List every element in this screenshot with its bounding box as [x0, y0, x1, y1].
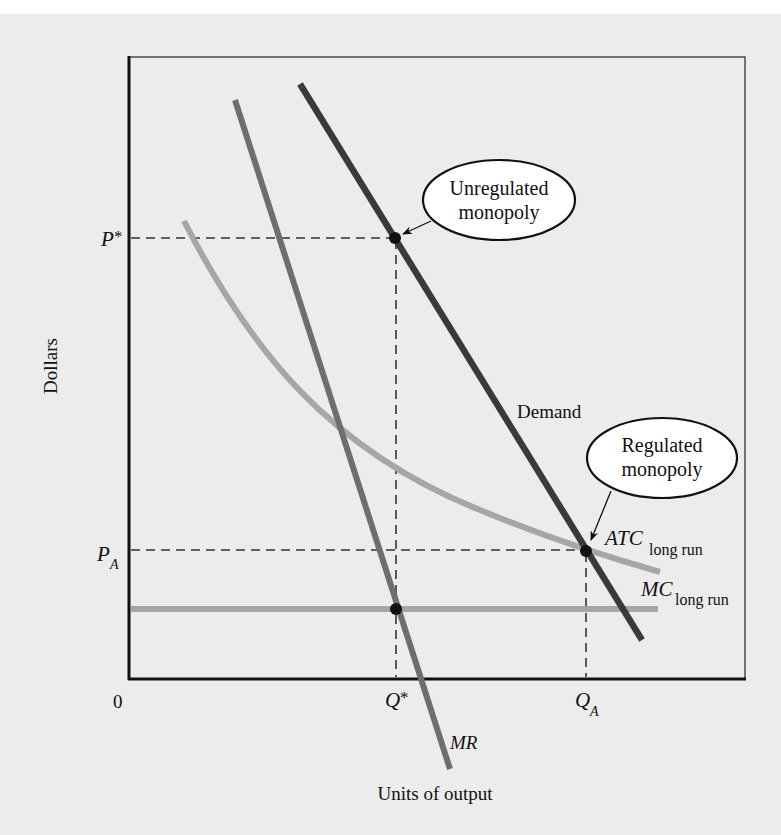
mr-mc-intersection-point — [390, 603, 402, 615]
unregulated-point — [389, 232, 401, 244]
q-star-mark: * — [400, 688, 409, 707]
unregulated-arrow-icon — [403, 221, 431, 234]
demand-label: Demand — [517, 401, 582, 422]
chart-figure: Unregulated monopoly Regulated monopoly … — [0, 0, 781, 835]
q-a-sub: A — [589, 704, 599, 719]
p-a-sub: A — [109, 557, 119, 572]
atc-label-sub: long run — [649, 541, 703, 559]
callout-regulated-line2: monopoly — [621, 458, 702, 481]
chart-svg: Unregulated monopoly Regulated monopoly … — [0, 0, 781, 835]
regulated-point — [580, 545, 592, 557]
p-a-base: P — [96, 542, 110, 566]
q-star-label: Q * — [385, 688, 409, 712]
q-a-label: Q A — [575, 688, 599, 719]
callout-unregulated: Unregulated monopoly — [423, 160, 575, 240]
y-axis-title: Dollars — [40, 338, 61, 394]
p-a-label: P A — [96, 542, 119, 572]
q-star-base: Q — [385, 688, 400, 712]
mr-label: MR — [449, 732, 478, 753]
atc-label-base: ATC — [603, 526, 644, 550]
p-star-base: P — [100, 227, 114, 251]
atc-long-run-curve — [184, 221, 660, 572]
callout-regulated: Regulated monopoly — [587, 418, 737, 498]
mc-label-base: MC — [640, 577, 673, 601]
mc-label-sub: long run — [675, 591, 729, 609]
p-star-mark: * — [114, 227, 123, 246]
callout-unregulated-line2: monopoly — [458, 201, 539, 224]
atc-label: ATC long run — [603, 526, 703, 559]
x-axis-title: Units of output — [377, 783, 493, 804]
callout-regulated-line1: Regulated — [621, 434, 702, 457]
origin-label: 0 — [113, 691, 123, 712]
mr-curve — [235, 100, 450, 769]
p-star-label: P * — [100, 227, 123, 251]
callout-unregulated-line1: Unregulated — [450, 177, 549, 200]
mc-label: MC long run — [640, 577, 729, 609]
q-a-base: Q — [575, 688, 590, 712]
